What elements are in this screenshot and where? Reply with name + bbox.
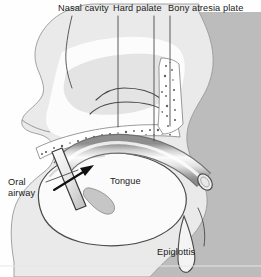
label-oral-airway-line1: Oral bbox=[8, 177, 26, 188]
medical-illustration-figure: Nasal cavity Hard palate Bony atresia pl… bbox=[0, 0, 261, 277]
anatomy-drawing bbox=[0, 0, 261, 277]
label-bony-atresia-plate: Bony atresia plate bbox=[168, 3, 243, 14]
label-tongue: Tongue bbox=[110, 176, 141, 187]
bony-atresia-plate-speckled bbox=[158, 58, 183, 134]
label-nasal-cavity: Nasal cavity bbox=[58, 3, 109, 14]
label-hard-palate: Hard palate bbox=[113, 3, 162, 14]
label-oral-airway-line2: airway bbox=[8, 188, 35, 199]
label-epiglottis: Epiglottis bbox=[157, 247, 195, 258]
